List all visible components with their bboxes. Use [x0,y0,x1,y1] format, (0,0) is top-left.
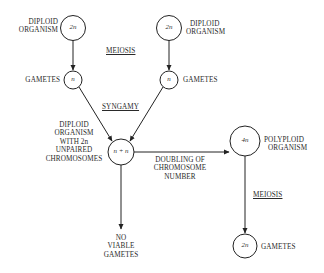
label-gametes-right: GAMETES [183,76,218,84]
label-zygote-l2: ORGANISM [44,129,104,137]
label-polyploid-l2: ORGANISM [264,144,307,152]
label-zygote-l3: WITH 2n [44,138,104,146]
label-diploid-left-l1: DIPLOID [8,18,58,26]
label-zygote-l4: UNPAIRED [44,146,104,154]
label-doubling: DOUBLING OF CHROMOSOME NUMBER [148,156,212,181]
label-polyploid: POLYPLOID ORGANISM [264,136,307,153]
symbol-diploid-right: 2n [157,23,181,31]
label-diploid-left-l2: ORGANISM [8,26,58,34]
label-meiosis-top: MEIOSIS [106,47,135,55]
label-doubling-l3: NUMBER [148,173,212,181]
label-zygote-l1: DIPLOID [44,121,104,129]
symbol-gamete-right: n [161,75,177,83]
label-no-viable-l1: NO [96,234,146,242]
symbol-polyploid: 4n [233,136,257,144]
arrow-syngamy-right [130,87,163,141]
label-diploid-right-l1: DIPLOID [186,20,225,28]
symbol-zygote: n + n [107,147,135,155]
label-meiosis-right: MEIOSIS [253,191,282,199]
label-doubling-l1: DOUBLING OF [148,156,212,164]
label-diploid-right-l2: ORGANISM [186,28,225,36]
label-zygote: DIPLOID ORGANISM WITH 2n UNPAIRED CHROMO… [44,121,104,163]
symbol-diploid-left: 2n [61,23,85,31]
label-zygote-l5: CHROMOSOMES [44,155,104,163]
label-polyploid-l1: POLYPLOID [264,136,307,144]
label-syngamy: SYNGAMY [102,103,139,111]
label-diploid-right: DIPLOID ORGANISM [186,20,225,37]
symbol-polyploid-gametes: 2n [233,241,257,249]
label-no-viable-gametes: NO VIABLE GAMETES [96,234,146,259]
label-no-viable-l3: GAMETES [96,251,146,259]
label-diploid-left: DIPLOID ORGANISM [8,18,58,35]
label-gametes-left: GAMETES [10,76,60,84]
label-polyploid-gametes: GAMETES [261,243,296,251]
symbol-gamete-left: n [65,75,81,83]
label-doubling-l2: CHROMOSOME [148,164,212,172]
label-no-viable-l2: VIABLE [96,242,146,250]
